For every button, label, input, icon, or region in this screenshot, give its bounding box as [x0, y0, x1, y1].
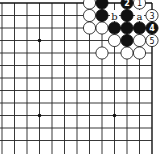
white-stone: [83, 22, 95, 34]
white-stone: [96, 47, 108, 59]
white-stone: [108, 34, 120, 46]
star-point: [113, 114, 117, 118]
white-stone-disc: [96, 22, 108, 34]
white-stone: [83, 0, 95, 9]
white-stone-disc: [133, 47, 145, 59]
white-stone-disc: [96, 47, 108, 59]
black-stone: [133, 22, 145, 34]
marker-letter: a: [137, 11, 143, 22]
black-stone-disc: [121, 9, 133, 21]
marker-letter: b: [111, 11, 117, 22]
black-stone: [96, 0, 108, 9]
black-stone: [96, 9, 108, 21]
black-stone: [121, 34, 133, 46]
stones: 21345: [83, 0, 158, 59]
white-stone-disc: [133, 34, 145, 46]
white-stone: [133, 47, 145, 59]
black-stone: [121, 22, 133, 34]
point-marker-b: b: [110, 10, 119, 22]
white-stone-move-3: 3: [146, 9, 158, 21]
black-stone-disc: [96, 0, 108, 9]
white-stone-disc: [83, 9, 95, 21]
white-stone-disc: [121, 47, 133, 59]
black-stone-disc: [96, 9, 108, 21]
black-stone-disc: [121, 34, 133, 46]
white-stone-disc: [83, 0, 95, 9]
white-stone: [121, 47, 133, 59]
black-stone-disc: [133, 22, 145, 34]
white-stone: [96, 22, 108, 34]
move-number: 3: [149, 12, 154, 21]
point-marker-a: a: [135, 10, 144, 22]
white-stone-move-1: 1: [133, 0, 145, 9]
white-stone: [83, 9, 95, 21]
black-stone-disc: [121, 22, 133, 34]
star-point: [38, 39, 42, 43]
black-stone: [108, 22, 120, 34]
move-number: 2: [124, 0, 130, 8]
star-point: [38, 114, 42, 118]
go-board-diagram: ba 21345: [0, 0, 162, 158]
white-stone-disc: [108, 34, 120, 46]
white-stone-disc: [83, 22, 95, 34]
move-number: 5: [149, 37, 154, 46]
black-stone-disc: [108, 22, 120, 34]
black-stone: [121, 9, 133, 21]
black-stone-move-4: 4: [146, 22, 158, 34]
move-number: 1: [137, 0, 142, 8]
move-number: 4: [149, 24, 155, 33]
white-stone: [133, 34, 145, 46]
white-stone-move-5: 5: [146, 34, 158, 46]
black-stone-move-2: 2: [121, 0, 133, 9]
